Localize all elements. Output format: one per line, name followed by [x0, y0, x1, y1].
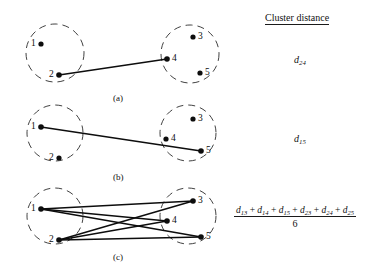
formula-term-4-sub: 23 [305, 209, 312, 216]
panel-a-edge-2-4 [59, 59, 167, 75]
panel-a-node-2 [56, 72, 62, 78]
panel-c-caption: (c) [113, 252, 123, 262]
formula-term-1-sub: 13 [241, 209, 248, 216]
panel-b-edge-1-5 [41, 127, 201, 151]
cluster-distance-heading: Cluster distance [265, 12, 329, 25]
cluster-distance-figure: 1 2 3 4 5 1 2 3 4 5 1 2 3 4 5 (a) (b) (c… [0, 0, 387, 278]
panel-b [27, 105, 216, 161]
panel-b-node-4 [163, 136, 168, 141]
formula-term-2-sub: 14 [262, 209, 269, 216]
panel-b-node-5 [198, 148, 204, 154]
panel-b-node-1 [38, 124, 44, 130]
panel-c-node-4-label: 4 [172, 216, 177, 226]
formula-term-2: d14 [257, 205, 268, 215]
formula-term-1: d13 [236, 205, 247, 215]
panel-a-node-4 [164, 56, 170, 62]
figure-canvas [0, 0, 387, 278]
formula-term-4: d23 [300, 205, 311, 215]
panel-a-node-3-label: 3 [198, 32, 203, 42]
formula-operator-2: + [269, 205, 279, 215]
panel-a-node-5 [197, 70, 202, 75]
panel-b-node-2-label: 2 [49, 153, 54, 163]
formula-operator-5: + [333, 205, 343, 215]
panel-b-node-2 [56, 155, 61, 160]
panel-b-node-4-label: 4 [171, 134, 176, 144]
formula-term-3: d15 [279, 205, 290, 215]
panel-b-left-cluster-boundary [27, 105, 83, 161]
formula-operator-3: + [290, 205, 300, 215]
panel-a-node-5-label: 5 [205, 68, 210, 78]
formula-term-6: d25 [343, 205, 354, 215]
panel-c-edges [41, 201, 201, 240]
formula-operator-4: + [311, 205, 321, 215]
panel-c-distance-formula: d13 + d14 + d15 + d23 + d24 + d25 6 [234, 205, 356, 229]
panel-a-node-4-label: 4 [172, 54, 177, 64]
panel-c-node-1 [38, 206, 44, 212]
panel-c-node-1-label: 1 [31, 204, 36, 214]
panel-c-node-2 [56, 237, 62, 243]
panel-a-node-1-label: 1 [31, 39, 36, 49]
formula-numerator: d13 + d14 + d15 + d23 + d24 + d25 [234, 205, 356, 217]
panel-a-node-3 [190, 34, 195, 39]
panel-c-node-4 [164, 218, 170, 224]
panel-b-caption: (b) [113, 172, 124, 182]
formula-denominator: 6 [234, 217, 356, 229]
panel-b-node-3-label: 3 [198, 114, 203, 124]
panel-b-node-3 [190, 116, 195, 121]
panel-c-edge-1-4 [41, 209, 167, 221]
panel-c [27, 188, 216, 244]
panel-a [26, 24, 219, 83]
panel-c-node-2-label: 2 [49, 235, 54, 245]
panel-b-distance-subscript: 15 [299, 138, 306, 145]
formula-term-6-sub: 25 [348, 209, 355, 216]
formula-term-3-sub: 15 [283, 209, 290, 216]
panel-b-distance-expression: d15 [294, 133, 306, 144]
panel-b-node-1-label: 1 [31, 122, 36, 132]
formula-term-5-sub: 24 [326, 209, 333, 216]
panel-a-node-1 [38, 41, 43, 46]
panel-c-edge-2-5 [59, 237, 201, 240]
formula-operator-1: + [247, 205, 257, 215]
panel-c-edge-1-5 [41, 209, 201, 237]
panel-b-node-5-label: 5 [206, 146, 211, 156]
panel-c-node-5-label: 5 [206, 232, 211, 242]
panel-c-node-3-label: 3 [198, 196, 203, 206]
panel-a-distance-expression: d24 [294, 54, 306, 65]
panel-a-node-2-label: 2 [49, 70, 54, 80]
formula-term-5: d24 [321, 205, 332, 215]
panel-a-right-cluster-boundary [161, 25, 219, 83]
panel-c-node-5 [198, 234, 204, 240]
panel-c-node-3 [190, 198, 196, 204]
panel-a-distance-subscript: 24 [299, 59, 306, 66]
panel-a-caption: (a) [113, 93, 123, 103]
